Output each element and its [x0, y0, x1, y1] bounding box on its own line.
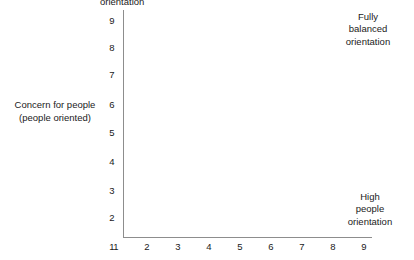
x-axis-tick-label: 2: [139, 241, 155, 252]
annotation-high-people-line-1: High: [324, 191, 414, 203]
y-axis-tick-label: 7: [105, 69, 119, 80]
x-axis-tick-label: 3: [170, 241, 186, 252]
x-axis-tick-label: 7: [294, 241, 310, 252]
annotation-high-people-line-2: people: [324, 203, 414, 215]
x-axis-tick-label: 1: [108, 241, 124, 252]
y-axis-label: Concern for people (people oriented): [6, 99, 104, 124]
x-axis-tick-label: 9: [356, 241, 372, 252]
annotation-fully-balanced-line-2: balanced: [322, 23, 414, 35]
x-axis-tick-label: 4: [201, 241, 217, 252]
annotation-fully-balanced-line-3: orientation: [322, 36, 414, 48]
y-axis-tick-label: 9: [105, 15, 119, 26]
x-axis-tick-label: 8: [325, 241, 341, 252]
y-axis-tick-label: 3: [105, 185, 119, 196]
y-axis-line: [123, 10, 124, 238]
annotation-fully-balanced: Fully balanced orientation: [322, 11, 414, 48]
y-axis-label-line-1: Concern for people: [6, 99, 104, 112]
y-axis-tick-label: 5: [105, 127, 119, 138]
managerial-grid-chart: orientation Concern for people (people o…: [0, 0, 414, 260]
annotation-fully-balanced-line-1: Fully: [322, 11, 414, 23]
y-axis-tick-label: 6: [105, 99, 119, 110]
x-axis-line: [123, 237, 372, 238]
x-axis-tick-label: 5: [232, 241, 248, 252]
y-axis-label-line-2: (people oriented): [6, 112, 104, 125]
y-axis-tick-label: 2: [105, 212, 119, 223]
clipped-axis-title: orientation: [100, 0, 144, 8]
y-axis-tick-label: 4: [105, 156, 119, 167]
annotation-high-people-line-3: orientation: [324, 216, 414, 228]
annotation-high-people: High people orientation: [324, 191, 414, 228]
y-axis-tick-label: 8: [105, 42, 119, 53]
x-axis-tick-label: 6: [263, 241, 279, 252]
